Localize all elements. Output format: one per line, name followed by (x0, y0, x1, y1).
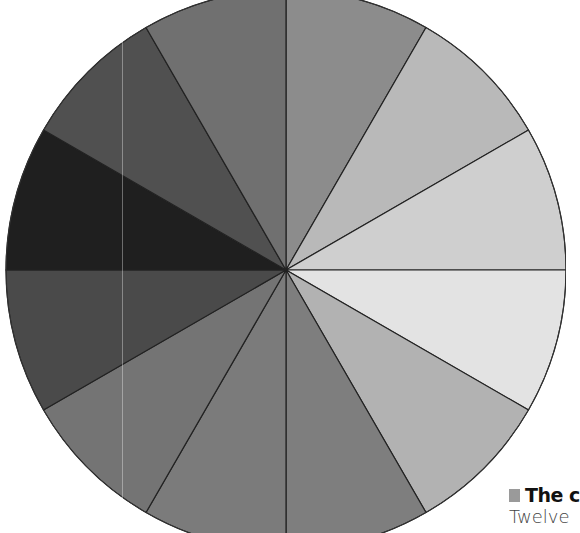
square-bullet-icon (509, 489, 520, 502)
caption-body: Twelve (509, 506, 580, 528)
caption-title: The c (509, 484, 580, 506)
caption-title-text: The c (525, 484, 580, 506)
caption: The c Twelve (509, 484, 580, 528)
page-fold-line (122, 0, 123, 533)
